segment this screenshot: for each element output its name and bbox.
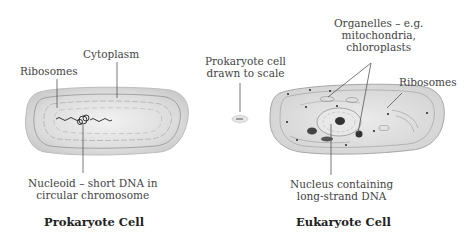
label-scale-line1: Prokaryote cell bbox=[205, 55, 286, 67]
prokaryote-cell bbox=[26, 87, 189, 155]
label-nucleoid-line2: circular chromosome bbox=[28, 189, 157, 201]
label-nucleoid-line1: Nucleoid – short DNA in bbox=[28, 177, 157, 189]
label-cytoplasm: Cytoplasm bbox=[83, 48, 139, 60]
prokaryote-to-scale bbox=[232, 116, 248, 123]
eukaryote-title: Eukaryote Cell bbox=[296, 215, 391, 229]
label-organelles-line2: mitochondria, bbox=[334, 29, 423, 41]
label-nucleoid: Nucleoid – short DNA in circular chromos… bbox=[28, 177, 157, 201]
eukaryote-cell bbox=[270, 84, 444, 154]
label-nucleus-line2: long-strand DNA bbox=[290, 190, 393, 202]
label-organelles: Organelles – e.g. mitochondria, chloropl… bbox=[334, 17, 423, 53]
label-organelles-line3: chloroplasts bbox=[334, 41, 423, 53]
label-nucleus-line1: Nucleus containing bbox=[290, 178, 393, 190]
label-ribosomes-prokaryote: Ribosomes bbox=[20, 65, 78, 77]
label-organelles-line1: Organelles – e.g. bbox=[334, 17, 423, 29]
label-nucleus: Nucleus containing long-strand DNA bbox=[290, 178, 393, 202]
prokaryote-title: Prokaryote Cell bbox=[44, 215, 144, 229]
label-ribosomes-eukaryote: Ribosomes bbox=[399, 76, 457, 88]
label-scale-line2: drawn to scale bbox=[205, 67, 286, 79]
label-drawn-to-scale: Prokaryote cell drawn to scale bbox=[205, 55, 286, 79]
